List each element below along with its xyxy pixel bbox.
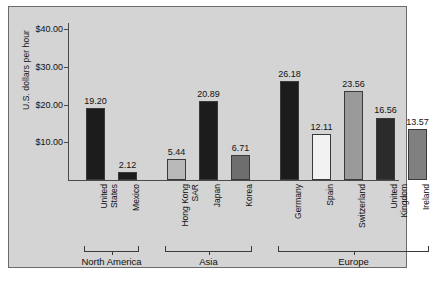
x-category-label: Mexico [132, 184, 142, 240]
y-tick-mark [64, 29, 69, 30]
bar [408, 129, 427, 180]
bar [280, 81, 299, 180]
bar-value-label: 16.56 [374, 105, 397, 115]
y-tick-label: $10.00 [17, 137, 63, 147]
bar [312, 134, 331, 180]
bar [86, 108, 105, 180]
group-label: Asia [199, 256, 217, 267]
bar [344, 91, 363, 180]
y-tick-label: $30.00 [17, 62, 63, 72]
group-bracket-stem [354, 251, 355, 255]
x-category-label: Switzerland [358, 184, 368, 240]
bar-value-label: 5.44 [168, 147, 186, 157]
y-tick-mark [64, 105, 69, 106]
y-tick-mark [64, 67, 69, 68]
x-axis-line [68, 180, 399, 181]
x-category-label: Spain [326, 184, 336, 240]
y-tick-label: $40.00 [17, 24, 63, 34]
bar-value-label: 12.11 [311, 122, 333, 132]
y-axis-tick-labels: $10.00$20.00$30.00$40.00 [9, 7, 63, 269]
plot-area: 19.202.125.4420.896.7126.1812.1123.5616.… [68, 23, 399, 181]
x-category-label: Japan [213, 184, 223, 240]
bar [167, 159, 186, 180]
x-category-label: UnitedStates [100, 184, 119, 240]
x-category-label: Ireland [422, 184, 431, 240]
y-tick-label: $20.00 [17, 100, 63, 110]
group-label: North America [81, 256, 141, 267]
bar-value-label: 23.56 [342, 79, 365, 89]
group-label: Europe [338, 256, 369, 267]
bar-value-label: 2.12 [119, 160, 137, 170]
bar-value-label: 19.20 [84, 96, 107, 106]
x-category-label: Germany [294, 184, 304, 240]
bar-value-label: 26.18 [278, 69, 301, 79]
x-category-label: Hong KongSAR [181, 184, 200, 240]
x-category-label: Korea [245, 184, 255, 240]
group-bracket-stem [209, 251, 210, 255]
bar [199, 101, 218, 180]
chart-figure: U.S. dollars per hour $10.00$20.00$30.00… [8, 6, 407, 268]
bar-value-label: 13.57 [406, 117, 429, 127]
bar [231, 155, 250, 180]
bar [376, 118, 395, 181]
y-axis-line [68, 23, 69, 181]
group-bracket-stem [112, 251, 113, 255]
bar-value-label: 6.71 [232, 143, 250, 153]
x-category-label: UnitedKingdom [390, 184, 409, 240]
bar-value-label: 20.89 [197, 89, 220, 99]
bar [118, 172, 137, 180]
y-tick-mark [64, 142, 69, 143]
